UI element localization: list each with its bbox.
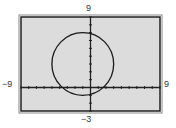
graph-screen	[0, 0, 176, 128]
